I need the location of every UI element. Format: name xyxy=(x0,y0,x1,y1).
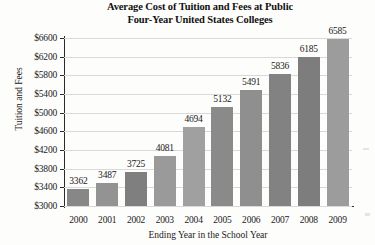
bar-slot: 6585 xyxy=(323,38,352,206)
bar xyxy=(240,90,262,206)
gridline xyxy=(64,206,352,207)
bar xyxy=(125,172,147,206)
x-axis-ticks: 2000200120022003200420052006200720082009 xyxy=(64,215,352,229)
y-axis-title: Tuition and Fees xyxy=(14,39,24,159)
plot-area: $3000$3400$3800$4200$4600$5000$5400$5800… xyxy=(64,38,352,206)
y-tick-label: $6600 xyxy=(34,33,57,43)
y-tick-label: $3000 xyxy=(34,201,57,211)
bar-slot: 5836 xyxy=(266,38,295,206)
bar xyxy=(327,39,349,206)
bar xyxy=(96,183,118,206)
bar-series: 3362348737254081469451325491583661856585 xyxy=(64,38,352,206)
bar xyxy=(211,107,233,206)
y-tick-label: $5000 xyxy=(34,108,57,118)
x-tick-label: 2009 xyxy=(318,215,358,225)
chart-title: Average Cost of Tuition and Fees at Publ… xyxy=(60,1,340,26)
bar-slot: 3362 xyxy=(64,38,93,206)
y-tick-label: $5800 xyxy=(34,70,57,80)
y-tick-label: $3400 xyxy=(34,182,57,192)
bar-slot: 5132 xyxy=(208,38,237,206)
x-axis-title: Ending Year in the School Year xyxy=(64,230,352,240)
bar xyxy=(67,189,89,206)
bar-slot: 3725 xyxy=(122,38,151,206)
bar-slot: 6185 xyxy=(294,38,323,206)
bar-slot: 4694 xyxy=(179,38,208,206)
y-tick-label: $4200 xyxy=(34,145,57,155)
y-tick-label: $6200 xyxy=(34,52,57,62)
y-tick-label: $4600 xyxy=(34,126,57,136)
bar-slot: 3487 xyxy=(93,38,122,206)
scan-artifact xyxy=(365,213,370,216)
bar xyxy=(183,127,205,206)
bar xyxy=(269,74,291,206)
scan-artifact xyxy=(363,148,369,150)
bar xyxy=(298,57,320,206)
chart-title-line-2: Four-Year United States Colleges xyxy=(60,14,340,27)
bar xyxy=(154,156,176,206)
chart-title-line-1: Average Cost of Tuition and Fees at Publ… xyxy=(60,1,340,14)
bar-value-label: 6585 xyxy=(315,26,361,36)
y-tick-mark xyxy=(60,206,64,207)
y-tick-label: $3800 xyxy=(34,164,57,174)
chart-figure: Average Cost of Tuition and Fees at Publ… xyxy=(0,0,375,245)
y-tick-label: $5400 xyxy=(34,89,57,99)
